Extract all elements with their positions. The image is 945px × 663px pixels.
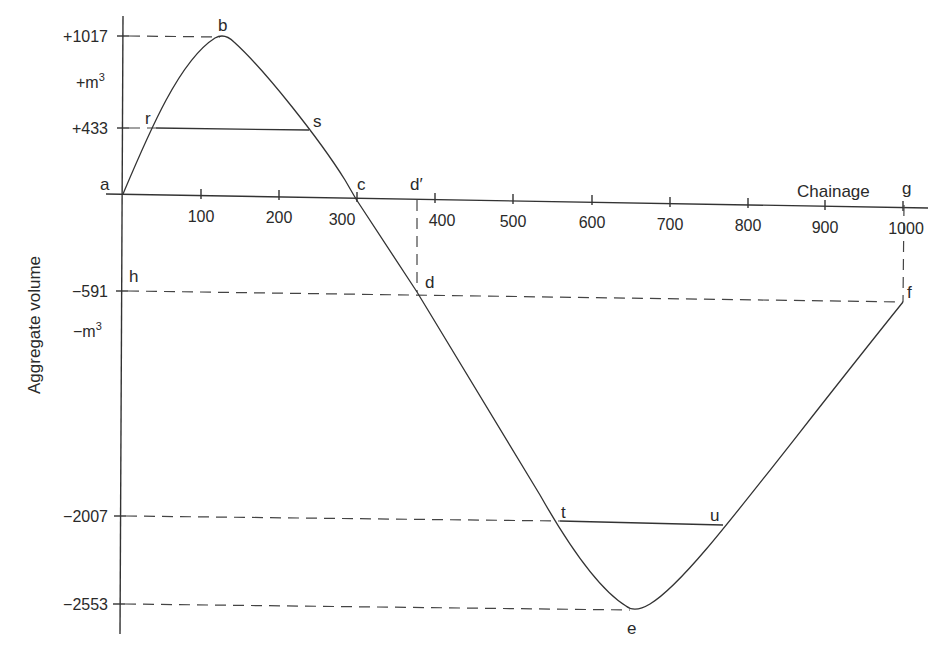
y-tick-label: −2553 [63, 596, 108, 613]
dash-h-d-f [128, 291, 903, 302]
x-tick-label: 500 [500, 213, 527, 230]
x-tick-label: 800 [735, 217, 762, 234]
point-label-e: e [627, 619, 636, 638]
point-label-s: s [313, 112, 322, 131]
balance-line-r-s [156, 128, 309, 130]
y-tick-label: +433 [72, 120, 108, 137]
x-tick-label: 100 [188, 208, 215, 225]
point-label-t: t [561, 503, 566, 522]
point-label-g: g [902, 179, 911, 198]
x-tick-label: 700 [657, 216, 684, 233]
point-label-r: r [145, 109, 151, 128]
x-tick-label: 900 [812, 219, 839, 236]
point-label-h: h [129, 267, 138, 286]
x-tick-label: 300 [329, 211, 356, 228]
x-tick-label: 200 [266, 209, 293, 226]
x-tick-label: 600 [579, 214, 606, 231]
negative-unit-label: −m3 [73, 320, 102, 340]
dash-e-level [125, 604, 630, 610]
x-tick-label: 400 [429, 212, 456, 229]
balance-line-t-u [560, 521, 723, 525]
mass-haul-curve [123, 36, 903, 609]
point-label-a: a [100, 175, 110, 194]
point-label-f: f [907, 283, 912, 302]
point-label-b: b [218, 16, 227, 35]
x-tick-label: 1000 [888, 220, 924, 237]
point-label-c: c [357, 175, 366, 194]
dash-t-level [126, 516, 560, 521]
dash-b-level [129, 36, 220, 37]
y-tick-label: +1017 [63, 28, 108, 45]
point-label-d-prime: d′ [410, 175, 423, 194]
positive-unit-label: +m3 [76, 71, 105, 91]
y-axis [120, 16, 123, 634]
y-tick-label: −2007 [63, 508, 108, 525]
y-tick-label: −591 [72, 283, 108, 300]
y-axis-title: Aggregate volume [25, 256, 44, 394]
point-label-u: u [710, 506, 719, 525]
x-axis-title: Chainage [797, 182, 870, 201]
mass-haul-diagram: +1017 +433 −591 −2007 −2553 +m3 −m3 Aggr… [0, 0, 945, 663]
point-label-d: d [425, 273, 434, 292]
